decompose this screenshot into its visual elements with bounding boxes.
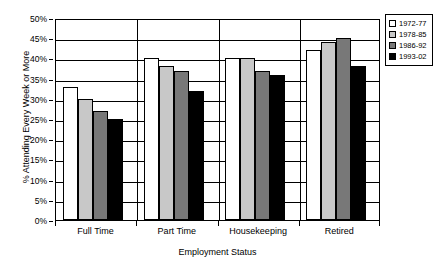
legend: 1972-771978-851986-921993-02 [385,14,433,66]
legend-label: 1978-85 [399,31,427,39]
bar-1986-92-part-time [174,71,189,220]
legend-swatch-icon [389,53,396,60]
y-tick-mark [49,160,53,161]
y-tick-label: 20% [30,135,47,145]
bar-chart: % Attending Every Week or More 0%5%10%15… [0,0,437,267]
y-tick-label: 0% [35,216,47,226]
y-tick-mark [49,140,53,141]
bar-1972-77-retired [306,50,321,220]
bar-1978-85-full-time [78,99,93,220]
bar-1972-77-part-time [144,58,159,220]
legend-label: 1986-92 [399,42,427,50]
bar-1978-85-housekeeping [240,58,255,220]
y-tick-label: 45% [30,34,47,44]
legend-swatch-icon [389,42,396,49]
x-tick-label-full-time: Full Time [77,226,114,236]
bar-1993-02-retired [351,66,366,220]
y-tick-mark [49,221,53,222]
y-tick-label: 25% [30,115,47,125]
bar-1978-85-retired [321,42,336,220]
bar-1993-02-part-time [189,91,204,220]
category-separator [137,20,138,220]
gridline [56,40,379,41]
bar-1986-92-full-time [93,111,108,220]
y-tick-label: 10% [30,176,47,186]
legend-item-1986-92[interactable]: 1986-92 [389,40,429,51]
y-tick-mark [49,39,53,40]
category-separator [300,20,301,220]
y-tick-label: 40% [30,54,47,64]
bar-1993-02-full-time [108,119,123,220]
x-tick-label-retired: Retired [325,226,354,236]
x-tick-label-housekeeping: Housekeeping [229,226,287,236]
legend-swatch-icon [389,31,396,38]
bar-1986-92-housekeeping [255,71,270,220]
y-tick-mark [49,181,53,182]
y-tick-mark [49,120,53,121]
legend-swatch-icon [389,20,396,27]
bar-1972-77-housekeeping [225,58,240,220]
x-tick-label-part-time: Part Time [158,226,197,236]
bar-1972-77-full-time [63,87,78,220]
y-tick-mark [49,19,53,20]
y-tick-label: 15% [30,155,47,165]
y-tick-mark [49,80,53,81]
legend-item-1972-77[interactable]: 1972-77 [389,18,429,29]
legend-item-1978-85[interactable]: 1978-85 [389,29,429,40]
legend-label: 1972-77 [399,20,427,28]
y-axis-tick-labels: 0%5%10%15%20%25%30%35%40%45%50% [0,19,53,221]
legend-label: 1993-02 [399,53,427,61]
category-separator [219,20,220,220]
x-axis-title: Employment Status [55,247,380,257]
bar-1978-85-part-time [159,66,174,220]
y-tick-label: 30% [30,95,47,105]
y-tick-label: 50% [30,14,47,24]
bar-1986-92-retired [336,38,351,220]
legend-item-1993-02[interactable]: 1993-02 [389,51,429,62]
y-tick-mark [49,100,53,101]
y-tick-label: 35% [30,75,47,85]
y-tick-mark [49,201,53,202]
y-tick-mark [49,59,53,60]
plot-area [55,19,380,221]
y-tick-label: 5% [35,196,47,206]
bar-1993-02-housekeeping [270,75,285,220]
x-axis-tick-labels: Full TimePart TimeHousekeepingRetired [55,226,380,240]
